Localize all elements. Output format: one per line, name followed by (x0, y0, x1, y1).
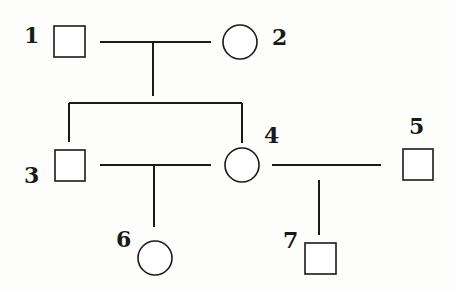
label-individual-6: 6 (116, 228, 131, 250)
individual-6-female-circle (138, 241, 172, 275)
individual-2-female-circle (223, 25, 257, 59)
label-individual-3: 3 (24, 164, 39, 186)
label-individual-7: 7 (283, 229, 298, 251)
label-individual-4: 4 (264, 124, 279, 146)
pedigree-diagram: 1 2 3 4 5 6 7 (0, 0, 456, 292)
individual-1-male-square (54, 26, 85, 57)
label-individual-5: 5 (409, 115, 424, 137)
individual-4-female-circle (225, 148, 259, 182)
label-individual-2: 2 (272, 26, 287, 48)
individual-5-male-square (403, 149, 433, 180)
pedigree-lines (0, 0, 456, 292)
individual-3-male-square (55, 150, 85, 181)
label-individual-1: 1 (24, 24, 39, 46)
individual-7-male-square (305, 243, 336, 274)
